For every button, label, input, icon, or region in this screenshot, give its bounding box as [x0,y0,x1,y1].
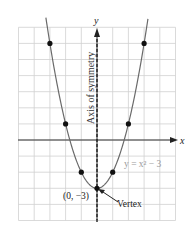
parabola-graph: x y Axis of symmetry y = x² − 3 (0, −3) … [0,0,196,235]
data-point [79,170,84,175]
data-point [94,186,99,191]
data-point [63,121,68,126]
vertex-arrow-icon [98,189,105,194]
symmetry-label: Axis of symmetry [85,52,96,124]
x-axis-label: x [179,135,185,146]
y-axis-label: y [93,15,99,26]
vertex-coords-label: (0, −3) [63,191,89,202]
x-axis-arrow-icon [170,137,178,143]
equation-label: y = x² − 3 [124,159,162,169]
data-point [47,41,52,46]
data-point [110,170,115,175]
vertex-label: Vertex [117,199,142,209]
data-point [142,41,147,46]
data-point [126,121,131,126]
